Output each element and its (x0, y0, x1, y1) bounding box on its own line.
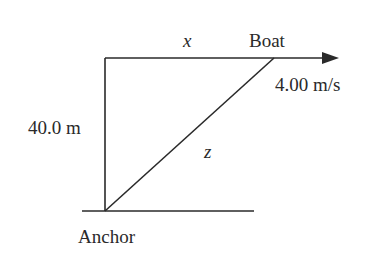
anchor-rope-line (105, 58, 274, 211)
label-boat: Boat (249, 30, 286, 51)
label-speed: 4.00 m/s (275, 74, 340, 95)
label-anchor: Anchor (78, 226, 136, 247)
label-depth: 40.0 m (28, 117, 81, 138)
boat-anchor-diagram: x Boat 4.00 m/s 40.0 m z Anchor (0, 0, 376, 268)
label-z: z (203, 141, 212, 162)
label-x: x (182, 30, 192, 51)
velocity-arrow-icon (322, 52, 339, 64)
